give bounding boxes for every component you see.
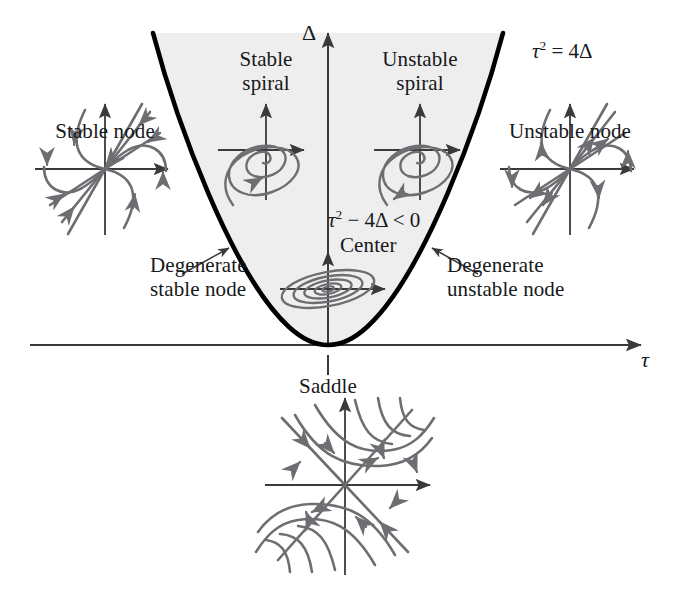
delta-axis-label: Δ — [302, 20, 316, 46]
parabola-equation-label: τ2 = 4Δ — [532, 39, 593, 64]
label-unstable-spiral-line2: spiral — [396, 72, 443, 96]
figure-canvas — [0, 0, 677, 604]
label-degenerate-stable-line2: stable node — [150, 278, 246, 302]
label-degenerate-unstable-line2: unstable node — [447, 278, 564, 302]
label-unstable-node: Unstable node — [509, 120, 631, 144]
label-degenerate-unstable-line1: Degenerate — [447, 254, 544, 278]
label-stable-spiral-line1: Stable — [239, 48, 292, 72]
label-center: Center — [340, 234, 397, 258]
tau-axis-label: τ — [641, 347, 649, 373]
label-stable-node: Stable node — [55, 120, 155, 144]
label-degenerate-stable-line1: Degenerate — [150, 254, 247, 278]
region-inequality-label: τ2 − 4Δ < 0 — [328, 208, 420, 233]
label-unstable-spiral-line1: Unstable — [382, 48, 457, 72]
phase-plane-classification-figure: Δ τ τ2 = 4Δ τ2 − 4Δ < 0 Stable node Unst… — [0, 0, 677, 604]
mini-portrait-saddle — [256, 398, 434, 575]
label-saddle: Saddle — [299, 375, 357, 399]
label-stable-spiral-line2: spiral — [242, 72, 289, 96]
